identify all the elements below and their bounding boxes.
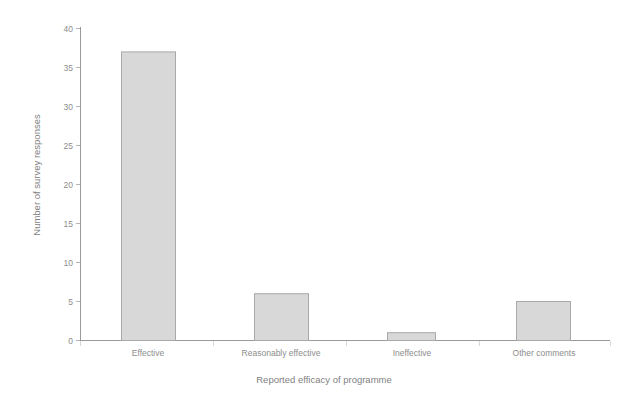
bar-effective[interactable]: [122, 52, 176, 341]
x-axis-title-text: Reported efficacy of programme: [256, 374, 392, 385]
y-tick-label: 0: [68, 336, 73, 346]
bar-reasonably-effective[interactable]: [255, 294, 309, 341]
y-tick-label: 25: [64, 141, 74, 151]
category-label-ineffective: Ineffective: [393, 348, 432, 358]
y-tick-label: 5: [68, 297, 73, 307]
y-axis-title-text: Number of survey responses: [31, 114, 42, 236]
y-tick-label: 40: [64, 24, 74, 34]
bar-other-comments[interactable]: [517, 302, 571, 341]
y-tick-label: 30: [64, 102, 74, 112]
y-axis-title: Number of survey responses: [31, 114, 42, 236]
bar-ineffective[interactable]: [388, 333, 436, 341]
y-tick-label: 35: [64, 63, 74, 73]
y-tick-label: 10: [64, 258, 74, 268]
bar-chart-figure: Number of survey responses 40 35 30 25: [0, 0, 635, 399]
y-tick-label: 20: [64, 180, 74, 190]
chart-canvas: Number of survey responses 40 35 30 25: [0, 0, 635, 399]
category-label-reasonably-effective: Reasonably effective: [242, 348, 321, 358]
category-label-effective: Effective: [132, 348, 165, 358]
category-label-other-comments: Other comments: [513, 348, 576, 358]
y-tick-label: 15: [64, 219, 74, 229]
